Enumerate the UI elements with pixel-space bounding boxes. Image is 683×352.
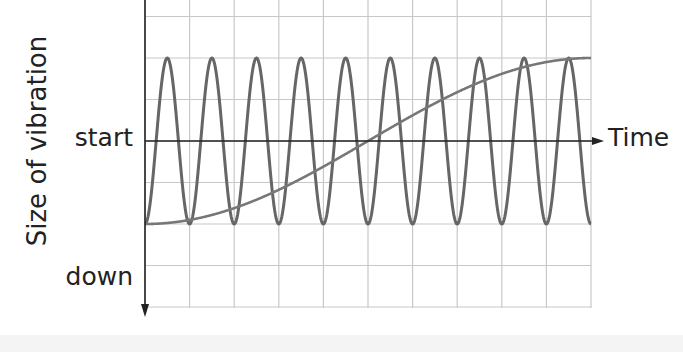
vibration-chart [0, 0, 683, 352]
axes [141, 0, 604, 317]
down-arrow-icon [141, 304, 149, 317]
time-axis-label: Time [608, 123, 669, 152]
bottom-band [0, 335, 683, 352]
right-arrow-icon [592, 137, 604, 145]
grid-lines [145, 0, 591, 308]
down-label: down [66, 262, 133, 291]
start-label: start [75, 123, 133, 152]
y-axis-label: Size of vibration [22, 36, 52, 247]
